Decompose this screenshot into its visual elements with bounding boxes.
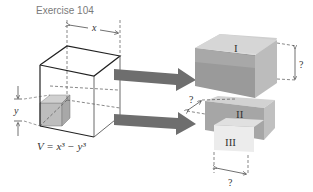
arrow-to-box-I <box>114 68 196 91</box>
arrow-to-box-II-III <box>114 112 196 135</box>
diagram-canvas: x y V = x³ − y³ I ? II <box>0 0 313 192</box>
width-dimension: ? <box>214 152 248 188</box>
box-III-label: III <box>225 136 236 148</box>
volume-formula: V = x³ − y³ <box>37 140 86 152</box>
box-I-label: I <box>234 42 238 54</box>
depth-question: ? <box>189 94 194 105</box>
x-label: x <box>91 22 97 33</box>
box-I: I <box>195 34 277 98</box>
width-question: ? <box>228 177 233 188</box>
height-dimension: ? <box>277 43 304 80</box>
y-label: y <box>13 105 19 116</box>
box-II-label: II <box>236 108 244 120</box>
main-cube <box>40 46 120 137</box>
height-question: ? <box>299 59 304 70</box>
